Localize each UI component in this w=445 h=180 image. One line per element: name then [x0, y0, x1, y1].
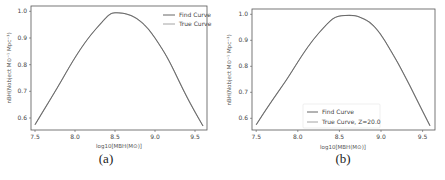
- y-tick-label: 0.8: [238, 62, 248, 69]
- y-axis-label: nBH(Nobject M⊙⁻¹ Mpc⁻³): [226, 34, 233, 105]
- y-axis: 0.6 0.7 0.8 0.9 1.0 nBH(Nobject M⊙⁻¹ Mpc…: [6, 7, 31, 121]
- legend-label: Find Curve: [322, 108, 354, 115]
- x-axis: 7.5 8.0 8.5 9.0 9.5 log10[MBH(M⊙)]: [251, 130, 427, 151]
- legend-label: True Curve: [178, 20, 212, 27]
- true-curve-line: [35, 13, 203, 126]
- y-axis-label: nBH(Nobject M⊙⁻¹ Mpc⁻³): [6, 32, 13, 103]
- x-tick-label: 9.5: [418, 133, 428, 140]
- legend-label: True Curve, Z=20.0: [321, 118, 381, 125]
- y-tick-label: 0.9: [17, 34, 27, 41]
- y-tick-label: 0.7: [238, 88, 248, 95]
- x-tick-label: 8.0: [70, 133, 80, 140]
- y-tick-label: 0.7: [17, 87, 27, 94]
- x-tick-label: 9.5: [190, 133, 200, 140]
- y-tick-label: 0.6: [238, 114, 248, 121]
- x-tick-label: 8.5: [335, 133, 345, 140]
- y-tick-label: 0.6: [17, 114, 27, 121]
- x-tick-label: 8.5: [110, 133, 120, 140]
- x-tick-label: 8.0: [293, 133, 303, 140]
- x-axis: 7.5 8.0 8.5 9.0 9.5 log10[MBH(M⊙)]: [30, 130, 200, 150]
- y-axis: 0.6 0.7 0.8 0.9 1.0 nBH(Nobject M⊙⁻¹ Mpc…: [226, 10, 252, 121]
- x-axis-label: log10[MBH(M⊙)]: [320, 144, 366, 151]
- y-tick-label: 1.0: [17, 7, 27, 14]
- find-curve-line: [35, 13, 203, 126]
- x-axis-label: log10[MBH(M⊙)]: [96, 143, 142, 150]
- y-tick-label: 0.8: [17, 61, 27, 68]
- chart-panel-a: 0.6 0.7 0.8 0.9 1.0 nBH(Nobject M⊙⁻¹ Mpc…: [0, 0, 222, 180]
- x-tick-label: 7.5: [251, 133, 261, 140]
- x-tick-label: 9.0: [376, 133, 386, 140]
- legend: Find Curve True Curve: [163, 11, 212, 27]
- caption-a: (a): [86, 151, 126, 167]
- y-tick-label: 0.9: [238, 36, 248, 43]
- x-tick-label: 7.5: [30, 133, 40, 140]
- x-tick-label: 9.0: [150, 133, 160, 140]
- caption-b: (b): [323, 151, 363, 167]
- legend-label: Find Curve: [179, 11, 211, 18]
- y-tick-label: 1.0: [238, 10, 248, 17]
- chart-panel-b: 0.6 0.7 0.8 0.9 1.0 nBH(Nobject M⊙⁻¹ Mpc…: [222, 0, 445, 180]
- legend: Find Curve True Curve, Z=20.0: [303, 104, 381, 128]
